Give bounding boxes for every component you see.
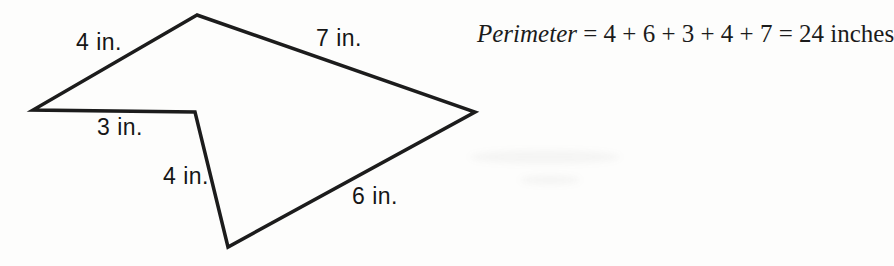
perimeter-equation: Perimeter = 4 + 6 + 3 + 4 + 7 = 24 inche… [477,20,894,48]
side-label-top-right: 7 in. [316,25,362,52]
perimeter-equation-term: Perimeter [477,20,577,47]
side-label-middle-left: 3 in. [97,114,143,141]
scan-artifact [520,175,580,185]
perimeter-equation-expression: = 4 + 6 + 3 + 4 + 7 = 24 inches [577,20,894,47]
side-label-inner-vertical: 4 in. [163,163,209,190]
side-label-top-left: 4 in. [76,29,122,56]
side-label-bottom-right: 6 in. [352,183,398,210]
